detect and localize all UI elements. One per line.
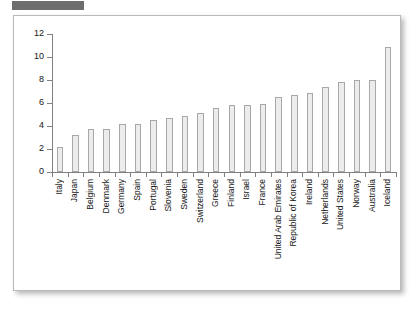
x-axis-label: United States [336, 179, 345, 230]
x-axis-tick [99, 173, 100, 177]
y-axis-tick-label: 10 [34, 51, 44, 62]
bar [119, 124, 126, 172]
x-axis-label: Italy [55, 179, 64, 195]
x-axis-label: Portugal [149, 179, 158, 211]
bar [166, 118, 173, 172]
x-axis-label: Slovenia [164, 179, 173, 212]
y-axis-tick-label: 0 [39, 166, 44, 177]
figure-panel: 024681012 ItalyJapanBelgiumDenmarkGerman… [13, 15, 401, 291]
bar [260, 104, 267, 172]
bar [307, 93, 314, 172]
bar [57, 147, 64, 172]
x-axis-label: Iceland [383, 179, 392, 206]
x-axis-label: Denmark [102, 179, 111, 213]
bar [369, 80, 376, 172]
bar [385, 47, 392, 172]
x-axis-tick [115, 173, 116, 177]
x-axis-tick [380, 173, 381, 177]
bar [244, 105, 251, 172]
bar [103, 129, 110, 172]
x-axis-tick [365, 173, 366, 177]
bar [88, 129, 95, 172]
bar [322, 87, 329, 172]
x-axis-tick [52, 173, 53, 177]
bar [135, 124, 142, 172]
x-axis-tick [177, 173, 178, 177]
x-axis-tick [83, 173, 84, 177]
y-axis-tick-label: 8 [39, 74, 44, 85]
bar [229, 105, 236, 172]
x-axis-label: Spain [133, 179, 142, 201]
x-axis-tick [130, 173, 131, 177]
x-axis-tick [161, 173, 162, 177]
x-axis-label: Belgium [86, 179, 95, 210]
x-axis-tick [240, 173, 241, 177]
x-axis-label: Australia [368, 179, 377, 212]
plot-area [52, 34, 396, 172]
x-axis-label: Switzerland [196, 179, 205, 223]
x-axis-label: France [258, 179, 267, 205]
x-axis-label: United Arab Emirates [274, 179, 283, 259]
x-axis-tick [193, 173, 194, 177]
x-axis-tick [208, 173, 209, 177]
bar [354, 80, 361, 172]
x-axis-tick [396, 173, 397, 177]
x-axis-tick [146, 173, 147, 177]
bar [197, 113, 204, 172]
x-axis-label: Japan [70, 179, 79, 202]
bar [72, 135, 79, 172]
x-axis-tick [333, 173, 334, 177]
y-axis-tick-label: 2 [39, 143, 44, 154]
y-axis-tick-label: 12 [34, 28, 44, 39]
x-axis-tick [287, 173, 288, 177]
x-axis-label: Ireland [305, 179, 314, 205]
bar [291, 95, 298, 172]
x-axis-label: Greece [211, 179, 220, 207]
bar [150, 120, 157, 172]
x-axis-label: Finland [227, 179, 236, 207]
x-axis-label: Norway [352, 179, 361, 208]
x-axis-label: Germany [117, 179, 126, 214]
x-axis-tick [349, 173, 350, 177]
x-axis-label: Israel [242, 179, 251, 200]
x-axis-tick [318, 173, 319, 177]
y-axis-tick-label: 6 [39, 97, 44, 108]
x-axis-label: Sweden [180, 179, 189, 210]
bar [338, 82, 345, 172]
redacted-caption-bar [12, 1, 84, 10]
x-axis-label: Netherlands [321, 179, 330, 225]
x-axis-label: Republic of Korea [289, 179, 298, 247]
bar [213, 108, 220, 172]
x-axis-tick [255, 173, 256, 177]
x-axis-tick [271, 173, 272, 177]
x-axis-tick [68, 173, 69, 177]
x-axis-tick [302, 173, 303, 177]
bar [182, 116, 189, 172]
x-axis-tick [224, 173, 225, 177]
bar [275, 97, 282, 172]
y-axis-tick-label: 4 [39, 120, 44, 131]
